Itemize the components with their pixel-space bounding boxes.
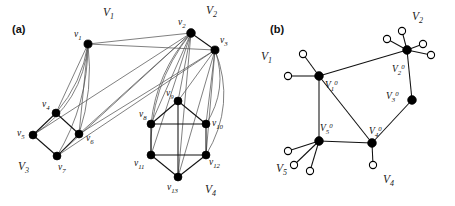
set-label-V5: V5 [276, 162, 287, 177]
edge-v1-v6 [79, 44, 88, 134]
node-v11[interactable] [147, 151, 155, 159]
node-V3_0[interactable] [408, 96, 417, 105]
node-label-v5: v5 [17, 128, 25, 140]
node-label-v4: v4 [42, 99, 50, 111]
node-label-v12: v12 [209, 157, 221, 169]
node-v10[interactable] [202, 120, 210, 128]
node-V4_0[interactable] [368, 139, 377, 148]
node-label-v11: v11 [134, 158, 145, 170]
edge-v3-v7 [57, 50, 215, 156]
node-label-V1_0: V10 [325, 79, 338, 92]
panel-b: V10V20V30V40V50V1V2V4V5(b) [261, 10, 435, 188]
node-label-V3_0: V30 [386, 90, 399, 103]
node-v7[interactable] [53, 152, 61, 160]
graph-figure-svg: v1v2v3v4v5v6v7v8v9v10v11v12v13V1V2V3V4(a… [0, 0, 455, 206]
satellite-node-V1_0-0[interactable] [299, 50, 306, 57]
node-label-v6: v6 [86, 133, 94, 145]
node-v3[interactable] [211, 46, 219, 54]
node-V1_0[interactable] [315, 72, 324, 81]
edge-v8-v9 [151, 101, 178, 124]
set-label-V3: V3 [18, 160, 29, 175]
edge-v12-v13 [178, 155, 206, 177]
node-label-v2: v2 [178, 17, 186, 29]
node-label-v8: v8 [139, 109, 147, 121]
node-v2[interactable] [187, 29, 196, 38]
edge-V2_0-V3_0 [407, 50, 412, 100]
node-label-v3: v3 [220, 35, 228, 47]
satellite-node-V2_0-4[interactable] [419, 40, 426, 47]
node-label-V4_0: V40 [369, 125, 382, 138]
edge-v5-v7 [33, 135, 57, 156]
edge-V4_0-V5_0 [319, 141, 372, 143]
edge-v4-v5 [33, 113, 56, 135]
node-label-v7: v7 [58, 162, 66, 174]
node-label-V2_0: V20 [392, 63, 405, 76]
node-v6[interactable] [75, 130, 83, 138]
figure-container: v1v2v3v4v5v6v7v8v9v10v11v12v13V1V2V3V4(a… [0, 0, 455, 206]
satellite-node-V4_0-6[interactable] [369, 161, 376, 168]
satellite-node-V2_0-2[interactable] [398, 27, 405, 34]
panel-caption-a: (a) [12, 23, 26, 35]
node-label-V5_0: V50 [320, 122, 333, 135]
edge-v1-v2 [88, 33, 191, 44]
node-label-v1: v1 [74, 29, 82, 41]
edge-v3-v10 [206, 50, 220, 124]
set-label-V1: V1 [103, 6, 114, 21]
edge-v2-v5 [33, 33, 191, 135]
node-V5_0[interactable] [315, 137, 324, 146]
node-label-v10: v10 [212, 118, 224, 130]
node-v1[interactable] [84, 40, 92, 48]
node-label-v9: v9 [166, 88, 174, 100]
node-v13[interactable] [174, 173, 182, 181]
set-label-V4: V4 [205, 183, 216, 198]
node-V2_0[interactable] [403, 46, 412, 55]
satellite-node-V5_0-8[interactable] [290, 161, 297, 168]
set-label-V2: V2 [206, 4, 217, 19]
edge-v1-v5 [33, 44, 88, 135]
node-v5[interactable] [29, 131, 37, 139]
satellite-node-V1_0-1[interactable] [284, 72, 291, 79]
edge-v1-v3 [88, 44, 215, 50]
satellite-node-V5_0-7[interactable] [284, 147, 291, 154]
node-v4[interactable] [52, 109, 60, 117]
satellite-node-V2_0-5[interactable] [427, 51, 434, 58]
set-label-V2: V2 [412, 10, 423, 25]
satellite-node-V5_0-9[interactable] [306, 167, 313, 174]
set-label-V1: V1 [261, 50, 272, 65]
panel-a: v1v2v3v4v5v6v7v8v9v10v11v12v13V1V2V3V4(a… [12, 4, 228, 198]
panel-caption-b: (b) [270, 23, 284, 35]
edge-v11-v13 [151, 155, 178, 177]
edge-v9-v10 [178, 101, 206, 124]
node-label-v13: v13 [167, 182, 179, 194]
satellite-node-V2_0-3[interactable] [383, 35, 390, 42]
set-label-V4: V4 [383, 173, 394, 188]
edge-v6-v7 [57, 134, 79, 156]
node-v9[interactable] [174, 97, 182, 105]
edge-v2-v8 [151, 33, 191, 124]
node-v8[interactable] [147, 120, 155, 128]
